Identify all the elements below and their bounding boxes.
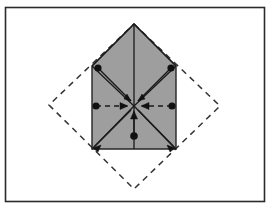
dot-bottom-center — [130, 132, 138, 140]
figure-container — [0, 0, 273, 215]
dot-upper-right — [167, 64, 174, 71]
dot-mid-left — [92, 102, 99, 109]
dot-upper-left — [94, 64, 101, 71]
symmetry-diagram — [0, 0, 273, 215]
dot-mid-right — [168, 102, 175, 109]
